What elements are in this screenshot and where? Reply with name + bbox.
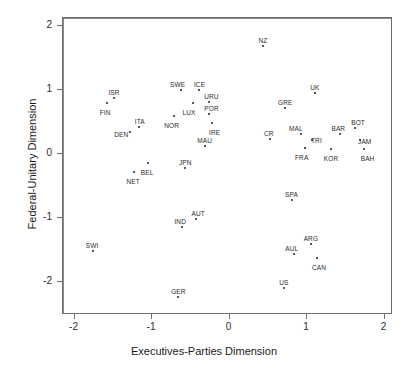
- data-point-label: AUL: [285, 245, 298, 252]
- y-tick-mark: [57, 217, 62, 218]
- data-point-label: TRI: [311, 137, 322, 144]
- data-point-label: URU: [204, 93, 218, 100]
- data-point: [133, 171, 135, 173]
- x-tick-mark: [306, 314, 307, 319]
- data-point: [208, 113, 210, 115]
- x-tick-label: 0: [217, 321, 241, 333]
- data-point-label: BAR: [331, 125, 345, 132]
- data-point-label: BAH: [361, 155, 375, 162]
- y-tick-mark: [57, 25, 62, 26]
- plot-area: NZUKSWEICEISRFINURULUXGREPORNORIREITADEN…: [62, 17, 392, 314]
- data-point: [92, 250, 94, 252]
- data-point-label: NOR: [164, 122, 179, 129]
- y-tick-mark: [57, 153, 62, 154]
- x-axis-title: Executives-Parties Dimension: [0, 345, 408, 357]
- data-point: [293, 253, 295, 255]
- data-point-label: ICE: [194, 81, 205, 88]
- data-point-label: CAN: [312, 264, 326, 271]
- data-point-label: ISR: [108, 89, 119, 96]
- data-point-label: UK: [310, 84, 319, 91]
- data-point: [180, 89, 182, 91]
- data-point: [291, 199, 293, 201]
- data-point: [204, 145, 206, 147]
- y-tick-mark: [57, 281, 62, 282]
- data-point-label: SWI: [86, 242, 99, 249]
- data-point-label: BOT: [351, 119, 365, 126]
- horizontal-zero-reference-line: [63, 18, 391, 19]
- data-point-label: GRE: [278, 99, 292, 106]
- data-point: [310, 243, 312, 245]
- data-point-label: DEN: [114, 131, 128, 138]
- y-tick-label: -2: [30, 275, 52, 286]
- data-point-label: SPA: [285, 191, 298, 198]
- data-point-label: JAM: [358, 138, 371, 145]
- x-tick-mark: [151, 314, 152, 319]
- data-point: [314, 92, 316, 94]
- data-point: [177, 296, 179, 298]
- data-point-label: CR: [264, 130, 274, 137]
- data-point-label: LUX: [183, 109, 196, 116]
- x-tick-label: -2: [62, 321, 86, 333]
- data-point-label: IND: [174, 218, 186, 225]
- vertical-zero-reference-line: [63, 18, 64, 313]
- data-point-label: GER: [171, 288, 185, 295]
- x-tick-mark: [229, 314, 230, 319]
- data-point-label: MAU: [197, 137, 212, 144]
- data-point: [283, 287, 285, 289]
- data-point: [339, 133, 341, 135]
- data-point: [363, 148, 365, 150]
- data-point: [113, 97, 115, 99]
- data-point: [269, 138, 271, 140]
- data-point-label: AUT: [192, 210, 205, 217]
- y-axis-title: Federal-Unitary Dimension: [26, 54, 38, 274]
- data-point: [316, 257, 318, 259]
- data-point-label: NZ: [258, 37, 267, 44]
- x-tick-mark: [384, 314, 385, 319]
- data-point-label: ARG: [304, 235, 318, 242]
- data-point-label: FRA: [295, 154, 308, 161]
- data-point-label: POR: [204, 105, 218, 112]
- data-point: [304, 147, 306, 149]
- data-point: [208, 101, 210, 103]
- data-point-label: JPN: [179, 159, 192, 166]
- data-point: [138, 126, 140, 128]
- y-tick-label: 2: [30, 19, 52, 30]
- x-tick-label: 1: [294, 321, 318, 333]
- data-point-label: BEL: [141, 169, 154, 176]
- data-point-label: MAL: [289, 125, 303, 132]
- data-point: [106, 102, 108, 104]
- data-point: [195, 218, 197, 220]
- data-point-label: IRE: [209, 129, 220, 136]
- data-point-label: ITA: [135, 118, 145, 125]
- data-point: [300, 133, 302, 135]
- x-tick-label: -1: [139, 321, 163, 333]
- data-point: [262, 45, 264, 47]
- data-point: [330, 148, 332, 150]
- data-point: [173, 115, 175, 117]
- data-point: [211, 122, 213, 124]
- data-point: [181, 226, 183, 228]
- data-point: [198, 89, 200, 91]
- x-tick-mark: [74, 314, 75, 319]
- data-point-label: SWE: [170, 81, 185, 88]
- x-tick-label: 2: [372, 321, 396, 333]
- data-point-label: FIN: [100, 109, 111, 116]
- data-point: [184, 167, 186, 169]
- data-point-label: KOR: [324, 155, 338, 162]
- data-point: [284, 107, 286, 109]
- data-point: [129, 131, 131, 133]
- scatter-plot-figure: NZUKSWEICEISRFINURULUXGREPORNORIREITADEN…: [0, 0, 408, 378]
- y-tick-mark: [57, 89, 62, 90]
- data-point: [354, 127, 356, 129]
- data-point: [147, 162, 149, 164]
- data-point: [192, 102, 194, 104]
- data-point-label: NET: [127, 178, 140, 185]
- data-point-label: US: [279, 279, 288, 286]
